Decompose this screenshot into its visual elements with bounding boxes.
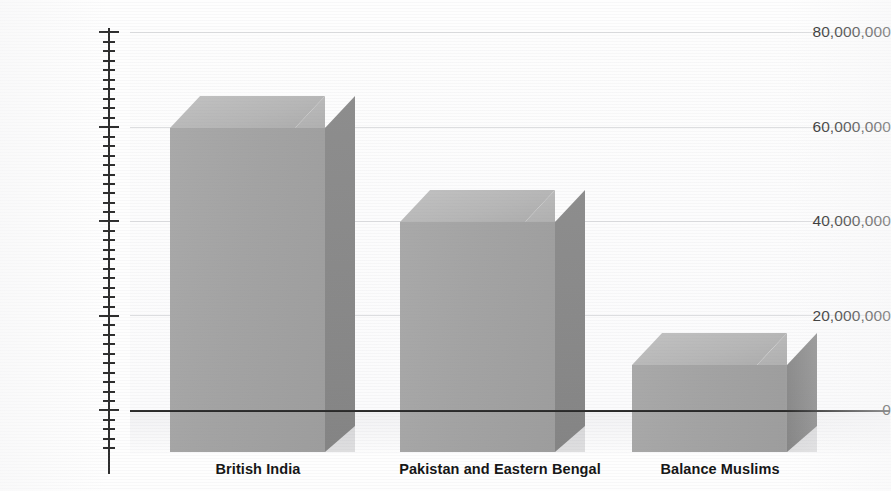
y-tick-minor [103, 372, 115, 374]
y-tick-minor [103, 258, 115, 260]
y-tick-minor [103, 107, 115, 109]
y-tick-minor [103, 400, 115, 402]
y-tick-major-60m [99, 126, 119, 128]
bar-side-face [555, 190, 585, 452]
x-axis-label-british-india: British India [158, 461, 358, 477]
bar-chart: 80,000,000 60,000,000 40,000,000 20,000,… [0, 0, 891, 491]
x-axis-label-balance-muslims: Balance Muslims [620, 461, 820, 477]
y-tick-minor [103, 343, 115, 345]
y-axis-label-80m: 80,000,000 [793, 23, 891, 41]
bar-front-face [400, 222, 555, 452]
x-axis-label-pakistan-eastern-bengal: Pakistan and Eastern Bengal [380, 461, 620, 477]
y-tick-minor [103, 202, 115, 204]
y-tick-minor [103, 117, 115, 119]
y-tick-minor [103, 145, 115, 147]
bar-british-india [170, 96, 325, 452]
y-tick-minor [103, 79, 115, 81]
y-axis-line [108, 28, 110, 474]
y-axis-label-20m: 20,000,000 [793, 307, 891, 325]
y-tick-minor [103, 50, 115, 52]
y-tick-minor [103, 447, 115, 449]
y-tick-minor [103, 174, 115, 176]
bar-side-face [325, 96, 355, 452]
y-tick-minor [103, 287, 115, 289]
y-tick-minor [103, 192, 115, 194]
y-tick-minor [103, 419, 115, 421]
y-tick-minor [103, 296, 115, 298]
y-tick-minor [103, 428, 115, 430]
y-tick-minor [103, 249, 115, 251]
y-tick-minor [103, 211, 115, 213]
gridline-80m [130, 32, 890, 33]
y-axis-label-60m: 60,000,000 [793, 118, 891, 136]
y-tick-minor [103, 69, 115, 71]
y-tick-minor [103, 324, 115, 326]
y-tick-minor [103, 155, 115, 157]
bar-front-face [632, 365, 787, 452]
y-tick-major-0 [99, 409, 119, 411]
y-tick-minor [103, 230, 115, 232]
y-tick-minor [103, 277, 115, 279]
y-tick-minor [103, 60, 115, 62]
y-tick-minor [103, 391, 115, 393]
y-tick-minor [103, 164, 115, 166]
y-tick-minor [103, 136, 115, 138]
y-tick-major-80m [99, 31, 119, 33]
y-tick-minor [103, 381, 115, 383]
y-axis-label-0: 0 [793, 401, 891, 419]
y-tick-major-40m [99, 220, 119, 222]
y-tick-major-20m [99, 315, 119, 317]
y-tick-minor [103, 438, 115, 440]
y-tick-minor [103, 334, 115, 336]
x-axis-line [130, 410, 890, 412]
y-tick-minor [103, 183, 115, 185]
y-axis-label-40m: 40,000,000 [793, 212, 891, 230]
y-tick-minor [103, 98, 115, 100]
bar-pakistan-eastern-bengal [400, 190, 555, 452]
y-tick-minor [103, 306, 115, 308]
y-tick-minor [103, 268, 115, 270]
y-tick-minor [103, 41, 115, 43]
bar-front-face [170, 128, 325, 452]
bar-balance-muslims [632, 333, 787, 452]
y-tick-minor [103, 353, 115, 355]
y-tick-minor [103, 362, 115, 364]
y-tick-minor [103, 239, 115, 241]
y-tick-minor [103, 88, 115, 90]
